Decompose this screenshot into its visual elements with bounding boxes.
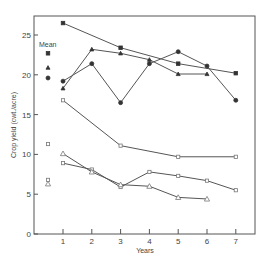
- data-point: [119, 51, 123, 55]
- y-tick-label: 20: [22, 71, 31, 80]
- mean-marker: [46, 66, 50, 70]
- y-tick-label: 0: [27, 230, 32, 239]
- series-open-triangle: [45, 151, 209, 201]
- data-point: [205, 179, 208, 182]
- data-point: [148, 170, 151, 173]
- mean-marker: [46, 52, 50, 56]
- data-point: [234, 189, 237, 192]
- y-tick-label: 15: [22, 111, 31, 120]
- x-tick-label: 7: [234, 237, 239, 246]
- mean-marker: [46, 142, 49, 145]
- data-point: [119, 144, 122, 147]
- data-point: [90, 62, 94, 66]
- data-point: [205, 72, 209, 76]
- data-point: [61, 99, 64, 102]
- data-point: [147, 62, 151, 66]
- x-tick-label: 1: [61, 237, 66, 246]
- x-tick-label: 4: [147, 237, 152, 246]
- data-point: [90, 47, 94, 51]
- x-tick-label: 3: [118, 237, 123, 246]
- series-line: [63, 154, 207, 199]
- data-point: [61, 79, 65, 83]
- data-point: [176, 72, 180, 76]
- y-tick-label: 10: [22, 150, 31, 159]
- x-tick-label: 2: [90, 237, 95, 246]
- series-open-square-upper: [46, 99, 237, 159]
- data-point: [176, 62, 180, 66]
- data-point: [147, 58, 151, 62]
- data-point: [234, 98, 238, 102]
- data-point: [119, 46, 123, 50]
- y-axis-label: Crop yield (cwt./acre): [10, 92, 18, 158]
- data-point: [60, 151, 65, 156]
- mean-marker: [46, 76, 50, 80]
- series-filled-triangle: [46, 47, 209, 90]
- x-axis-label: Years: [136, 247, 154, 254]
- series-open-square-lower: [46, 162, 237, 192]
- data-point: [177, 174, 180, 177]
- plot-frame: [34, 16, 255, 234]
- series-line: [63, 100, 236, 157]
- crop-yield-chart: 12345670510152025 Crop yield (cwt./acre)…: [0, 0, 270, 270]
- y-tick-label: 5: [27, 190, 32, 199]
- data-point: [61, 21, 65, 25]
- mean-marker: [45, 181, 50, 186]
- data-point: [176, 50, 180, 54]
- data-point: [234, 155, 237, 158]
- data-point: [234, 71, 238, 75]
- data-point: [61, 162, 64, 165]
- x-tick-label: 6: [205, 237, 210, 246]
- data-point: [177, 155, 180, 158]
- y-tick-label: 25: [22, 31, 31, 40]
- x-tick-label: 5: [176, 237, 181, 246]
- marks: [45, 21, 237, 201]
- data-point: [205, 64, 209, 68]
- mean-label: Mean: [39, 41, 57, 48]
- data-point: [119, 101, 123, 105]
- axes: 12345670510152025: [22, 16, 255, 246]
